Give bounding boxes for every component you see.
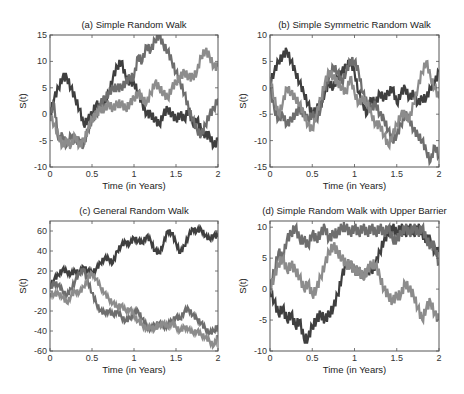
x-tick-label: 1 xyxy=(352,169,357,179)
y-axis-label: S(t) xyxy=(17,93,28,108)
series-group xyxy=(270,222,439,343)
y-tick-label: 10 xyxy=(257,30,267,40)
subplot-c: 00.511.52-60-40-200204060(c) General Ran… xyxy=(17,205,221,375)
x-tick-label: 1 xyxy=(131,353,136,363)
x-tick-label: 1.5 xyxy=(170,353,183,363)
y-tick-label: -5 xyxy=(259,315,267,325)
x-tick-label: 0.5 xyxy=(86,169,99,179)
y-tick-label: 60 xyxy=(37,226,47,236)
x-tick-label: 2 xyxy=(215,169,220,179)
subplot-title: (c) General Random Walk xyxy=(79,205,189,216)
y-axis-label: S(t) xyxy=(17,278,28,293)
series-group xyxy=(50,33,218,148)
x-tick-label: 1 xyxy=(131,169,136,179)
x-tick-label: 0.5 xyxy=(86,353,99,363)
x-tick-label: 1.5 xyxy=(390,169,403,179)
series-line-walk-2 xyxy=(50,33,218,148)
subplot-title: (a) Simple Random Walk xyxy=(81,19,186,30)
series-line-walk-1 xyxy=(270,48,439,117)
x-tick-label: 0.5 xyxy=(306,353,319,363)
x-tick-label: 0 xyxy=(47,353,52,363)
x-tick-label: 2 xyxy=(215,353,220,363)
subplot-d: 00.511.52-10-50510(d) Simple Random Walk… xyxy=(237,205,447,375)
x-tick-label: 0 xyxy=(267,169,272,179)
plot-frame xyxy=(270,221,439,351)
y-tick-label: -5 xyxy=(259,109,267,119)
x-tick-label: 2 xyxy=(436,169,441,179)
y-tick-label: 15 xyxy=(37,30,47,40)
x-tick-label: 0.5 xyxy=(306,169,319,179)
y-tick-label: 20 xyxy=(37,266,47,276)
x-tick-label: 1.5 xyxy=(170,169,183,179)
x-tick-label: 2 xyxy=(436,353,441,363)
x-axis-label: Time (in Years) xyxy=(323,180,387,191)
x-tick-label: 0 xyxy=(47,169,52,179)
y-tick-label: 0 xyxy=(262,83,267,93)
y-tick-label: -15 xyxy=(254,162,267,172)
subplot-a: 00.511.52-10-5051015(a) Simple Random Wa… xyxy=(17,19,221,191)
series-line-walk-2 xyxy=(270,222,439,289)
y-tick-label: 0 xyxy=(42,286,47,296)
x-axis-label: Time (in Years) xyxy=(102,364,166,375)
y-tick-label: -5 xyxy=(39,136,47,146)
y-tick-label: 5 xyxy=(262,56,267,66)
y-tick-label: 10 xyxy=(257,222,267,232)
x-tick-label: 1 xyxy=(352,353,357,363)
y-tick-label: 5 xyxy=(42,83,47,93)
x-axis-label: Time (in Years) xyxy=(102,180,166,191)
series-line-walk-3 xyxy=(270,242,439,322)
y-tick-label: -20 xyxy=(34,306,47,316)
subplot-title: (b) Simple Symmetric Random Walk xyxy=(278,19,431,30)
y-axis-label: S(t) xyxy=(237,93,248,108)
y-tick-label: 10 xyxy=(37,56,47,66)
y-tick-label: 5 xyxy=(262,253,267,263)
series-line-walk-1 xyxy=(270,224,439,344)
subplot-title: (d) Simple Random Walk with Upper Barrie… xyxy=(262,205,446,216)
series-group xyxy=(270,48,439,163)
series-line-walk-2 xyxy=(50,269,218,335)
y-tick-label: -40 xyxy=(34,326,47,336)
x-axis-label: Time (in Years) xyxy=(323,364,387,375)
y-tick-label: 0 xyxy=(42,109,47,119)
random-walk-figure: 00.511.52-10-5051015(a) Simple Random Wa… xyxy=(0,0,464,394)
y-tick-label: -10 xyxy=(34,162,47,172)
y-tick-label: -60 xyxy=(34,346,47,356)
series-group xyxy=(50,227,218,347)
y-tick-label: -10 xyxy=(254,346,267,356)
y-tick-label: 0 xyxy=(262,284,267,294)
y-tick-label: -10 xyxy=(254,136,267,146)
y-axis-label: S(t) xyxy=(237,278,248,293)
subplot-b: 00.511.52-15-10-50510(b) Simple Symmetri… xyxy=(237,19,442,191)
x-tick-label: 1.5 xyxy=(390,353,403,363)
y-tick-label: 40 xyxy=(37,246,47,256)
x-tick-label: 0 xyxy=(267,353,272,363)
